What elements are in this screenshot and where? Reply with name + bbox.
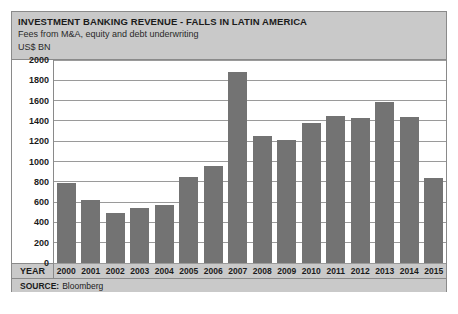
y-axis-tick-label: 200 (34, 238, 49, 248)
x-axis-tick-label: 2012 (348, 264, 373, 278)
bar-2010 (302, 123, 321, 263)
bar-slot (250, 60, 275, 263)
bar-2011 (326, 116, 345, 263)
bar-slot (275, 60, 300, 263)
y-axis-tick-label: 2000 (29, 55, 49, 65)
y-axis-tick-label: 1200 (29, 136, 49, 146)
bar-slot (397, 60, 422, 263)
x-axis-tick-label: 2007 (226, 264, 251, 278)
y-axis: 0200400600800100012001400160018002000 (12, 60, 54, 263)
chart-figure: INVESTMENT BANKING REVENUE - FALLS IN LA… (11, 11, 447, 292)
bar-2008 (253, 136, 272, 263)
bar-2005 (179, 177, 198, 263)
x-axis-tick-label: 2005 (177, 264, 202, 278)
y-axis-tick-label: 800 (34, 177, 49, 187)
plot-area (54, 60, 446, 263)
x-axis-tick-label: 2010 (299, 264, 324, 278)
x-axis-tick-label: 2015 (422, 264, 447, 278)
y-axis-tick-label: 0 (44, 258, 49, 268)
bar-slot (128, 60, 153, 263)
y-axis-tick-label: 400 (34, 217, 49, 227)
bar-2004 (155, 205, 174, 263)
x-axis-tick-label: 2014 (397, 264, 422, 278)
source-label: SOURCE: (20, 281, 59, 291)
bar-slot (422, 60, 447, 263)
year-axis-row: YEAR 20002001200220032004200520062007200… (12, 263, 446, 279)
y-axis-tick-label: 600 (34, 197, 49, 207)
plot-region: 0200400600800100012001400160018002000 (12, 60, 446, 263)
bar-2009 (277, 140, 296, 263)
chart-header-band: INVESTMENT BANKING REVENUE - FALLS IN LA… (12, 12, 446, 60)
bar-slot (324, 60, 349, 263)
source-value: Bloomberg (62, 281, 103, 291)
bar-slot (54, 60, 79, 263)
bar-slot (299, 60, 324, 263)
bar-2006 (204, 166, 223, 263)
bar-2013 (375, 102, 394, 263)
bar-slot (103, 60, 128, 263)
source-band: SOURCE: Bloomberg (12, 279, 446, 292)
y-axis-tick-label: 1600 (29, 96, 49, 106)
x-axis-tick-label: 2004 (152, 264, 177, 278)
x-axis-tick-label: 2013 (373, 264, 398, 278)
bar-2003 (130, 208, 149, 263)
x-axis-tick-label: 2002 (103, 264, 128, 278)
x-axis-tick-label: 2003 (128, 264, 153, 278)
bar-slot (79, 60, 104, 263)
x-axis-tick-label: 2009 (275, 264, 300, 278)
bar-slot (201, 60, 226, 263)
bar-slot (348, 60, 373, 263)
bar-2015 (424, 178, 443, 263)
x-axis-tick-label: 2011 (324, 264, 349, 278)
bar-slot (226, 60, 251, 263)
bar-2014 (400, 117, 419, 263)
bar-2007 (228, 72, 247, 263)
y-axis-tick-label: 1800 (29, 75, 49, 85)
year-tick-labels: 2000200120022003200420052006200720082009… (54, 264, 446, 278)
bar-2002 (106, 213, 125, 263)
y-axis-tick-label: 1000 (29, 157, 49, 167)
y-axis-units-label: US$ BN (18, 41, 440, 54)
bar-slot (152, 60, 177, 263)
bars-layer (54, 60, 446, 263)
x-axis-tick-label: 2008 (250, 264, 275, 278)
bar-2001 (81, 200, 100, 263)
y-axis-tick-label: 1400 (29, 116, 49, 126)
chart-subtitle: Fees from M&A, equity and debt underwrit… (18, 28, 440, 41)
page-title: INVESTMENT BANKING REVENUE - FALLS IN LA… (18, 15, 440, 28)
bar-2000 (57, 183, 76, 263)
bar-slot (177, 60, 202, 263)
bar-2012 (351, 118, 370, 263)
x-axis-tick-label: 2000 (54, 264, 79, 278)
x-axis-tick-label: 2006 (201, 264, 226, 278)
x-axis-tick-label: 2001 (79, 264, 104, 278)
bar-slot (373, 60, 398, 263)
